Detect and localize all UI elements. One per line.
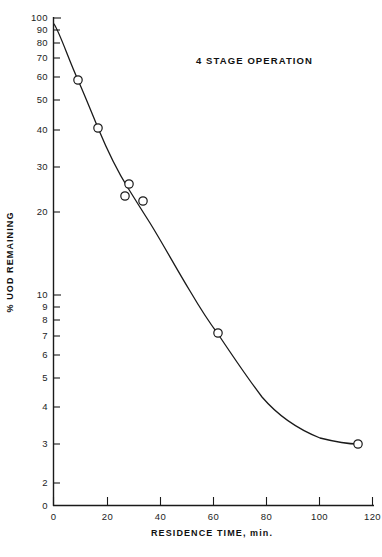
- ytick-label-70: 70: [8, 53, 48, 63]
- data-point: [139, 197, 147, 205]
- ytick-label-50: 50: [8, 95, 48, 105]
- ytick-label-7: 7: [8, 331, 48, 341]
- ytick-label-2: 2: [8, 478, 48, 488]
- ytick-label-3: 3: [8, 439, 48, 449]
- data-point: [214, 329, 222, 337]
- y-axis-title: % UOD REMAINING: [5, 211, 15, 312]
- ytick-label-100: 100: [8, 13, 48, 23]
- x-axis-title: RESIDENCE TIME, min.: [151, 528, 273, 538]
- xtick-label-20: 20: [102, 512, 113, 522]
- data-point: [354, 440, 362, 448]
- ytick-label-80: 80: [8, 38, 48, 48]
- ytick-label-90: 90: [8, 25, 48, 35]
- xtick-label-60: 60: [208, 512, 219, 522]
- ytick-label-4: 4: [8, 402, 48, 412]
- y-axis-ticks: [54, 18, 62, 483]
- xtick-label-0: 0: [51, 512, 57, 522]
- ytick-label-5: 5: [8, 373, 48, 383]
- data-markers: [74, 76, 362, 448]
- data-curve: [54, 24, 358, 444]
- ytick-label-60: 60: [8, 72, 48, 82]
- ytick-label-40: 40: [8, 125, 48, 135]
- xtick-label-40: 40: [155, 512, 166, 522]
- data-point: [94, 124, 102, 132]
- ytick-label-30: 30: [8, 162, 48, 172]
- x-axis-ticks: [54, 497, 373, 506]
- plot-area: [0, 0, 382, 557]
- axis-lines: [53, 17, 374, 506]
- data-point: [74, 76, 82, 84]
- data-point: [121, 192, 129, 200]
- xtick-label-80: 80: [261, 512, 272, 522]
- chart-figure: 100 90 80 70 60 50 40 30 20 10 9 8 7 6 5…: [0, 0, 382, 557]
- ytick-label-6: 6: [8, 350, 48, 360]
- xtick-label-120: 120: [364, 512, 381, 522]
- data-point: [125, 180, 133, 188]
- xtick-label-100: 100: [311, 512, 328, 522]
- ytick-label-8: 8: [8, 315, 48, 325]
- ytick-label-origin: 0: [8, 501, 48, 511]
- chart-title: 4 STAGE OPERATION: [196, 55, 313, 66]
